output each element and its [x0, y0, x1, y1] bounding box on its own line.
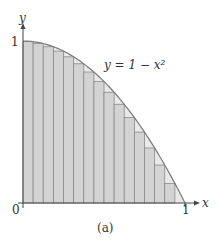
- x-tick-label-1: 1: [182, 203, 190, 217]
- riemann-rectangle: [155, 165, 165, 203]
- riemann-rectangle: [53, 51, 63, 203]
- riemann-rectangle: [64, 57, 74, 203]
- riemann-rectangle: [43, 47, 53, 203]
- function-label: y = 1 − x²: [103, 58, 166, 72]
- riemann-rectangle: [104, 92, 114, 203]
- riemann-rectangle: [124, 118, 134, 203]
- x-axis-label: x: [202, 196, 209, 210]
- riemann-rectangle: [114, 104, 124, 203]
- figure-caption: (a): [97, 221, 114, 235]
- riemann-rectangle: [94, 82, 104, 204]
- riemann-rectangle: [33, 44, 43, 203]
- riemann-rectangle: [74, 64, 84, 203]
- x-tick-label-0: 0: [12, 203, 20, 217]
- riemann-rectangle: [23, 42, 33, 203]
- riemann-rectangle: [165, 183, 175, 203]
- y-tick-label-1: 1: [11, 35, 19, 49]
- riemann-rectangle: [145, 148, 155, 203]
- riemann-rectangle: [134, 132, 144, 203]
- riemann-sum-figure: y x 1 0 1 y = 1 − x² (a): [0, 0, 219, 243]
- y-axis-label: y: [18, 11, 26, 25]
- x-axis-arrow-icon: [194, 201, 200, 206]
- riemann-rectangle: [84, 72, 94, 203]
